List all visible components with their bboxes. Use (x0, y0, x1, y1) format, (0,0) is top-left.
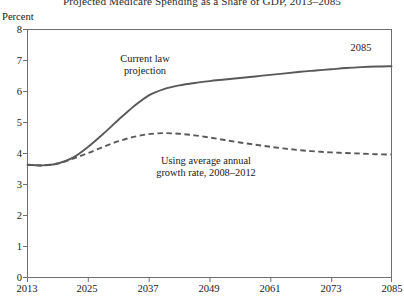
y-tick-label-4: 4 (6, 148, 22, 159)
annotation-end-year: 2085 (340, 42, 382, 54)
x-tick-label-2025: 2025 (65, 283, 109, 295)
y-tick-label-8: 8 (6, 24, 22, 35)
x-tick-label-2085: 2085 (370, 283, 404, 295)
y-tick-label-0: 0 (6, 272, 22, 283)
x-tick-label-2061: 2061 (248, 283, 292, 295)
x-tick-label-2037: 2037 (126, 283, 170, 295)
y-tick-label-3: 3 (6, 179, 22, 190)
chart-title: Projected Medicare Spending as a Share o… (0, 0, 404, 8)
y-tick-label-5: 5 (6, 117, 22, 128)
annotation-current-law-line1: Current law (120, 53, 169, 64)
series-line-current-law (28, 66, 392, 165)
y-tick-label-6: 6 (6, 86, 22, 97)
chart-figure: Projected Medicare Spending as a Share o… (0, 0, 404, 300)
y-tick-label-7: 7 (6, 55, 22, 66)
x-tick-label-2073: 2073 (309, 283, 353, 295)
annotation-average-growth-line2: growth rate, 2008–2012 (156, 167, 256, 178)
annotation-average-growth: Using average annual growth rate, 2008–2… (126, 155, 286, 180)
annotation-current-law-line2: projection (124, 65, 166, 76)
y-axis-ticks (23, 30, 28, 278)
annotation-current-law: Current law projection (97, 53, 193, 78)
y-tick-label-1: 1 (6, 241, 22, 252)
x-axis-ticks (28, 278, 392, 283)
annotation-average-growth-line1: Using average annual (161, 155, 251, 166)
y-axis-unit-label: Percent (2, 11, 34, 23)
x-tick-label-2013: 2013 (5, 283, 49, 295)
y-tick-label-2: 2 (6, 210, 22, 221)
x-tick-label-2049: 2049 (187, 283, 231, 295)
